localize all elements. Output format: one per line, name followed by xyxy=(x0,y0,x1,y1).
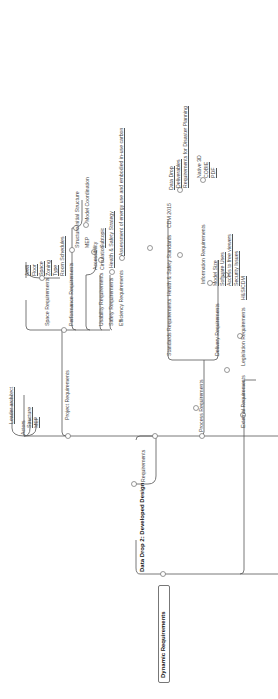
space-item[interactable]: Area xyxy=(24,265,31,276)
health-safety-strategy-item[interactable]: Health & Safety Strategy xyxy=(108,211,115,268)
space-item[interactable]: Room Schedules xyxy=(59,236,66,276)
actor-item[interactable]: Leader architect xyxy=(8,387,15,424)
delivery-item[interactable]: Software Uses xyxy=(219,252,226,286)
circulation-node[interactable]: Circulation xyxy=(99,245,105,270)
delivery-item[interactable]: Security Issues xyxy=(233,251,240,286)
process-requirements-node[interactable]: Process Requirements xyxy=(198,380,204,432)
legislation-requirements-node[interactable]: Legislation Requirements xyxy=(240,307,246,366)
structure-node[interactable]: Structure xyxy=(74,227,80,248)
info-item[interactable]: COBIE xyxy=(203,162,210,178)
performance-requirements-node[interactable]: Performance Requirements xyxy=(68,263,74,326)
delivery-requirements-node[interactable]: Delivery Requirements xyxy=(214,304,220,356)
accessibility-node[interactable]: Accessibility xyxy=(92,242,98,270)
actor-item[interactable]: Structure xyxy=(26,407,33,428)
delivery-item[interactable]: Access to free viewers xyxy=(226,234,233,286)
energy-assessment-item[interactable]: Assessment of energy use and embodied in… xyxy=(118,128,125,256)
cdm-item[interactable]: Requirements for Disaster Planning xyxy=(182,106,189,188)
initial-structure-item[interactable]: Initial Structure xyxy=(74,191,80,226)
mep-node[interactable]: MEP xyxy=(84,237,90,248)
project-requirements-node[interactable]: Project Requirements xyxy=(64,370,70,420)
usability-requirements-node[interactable]: Usability Requirements xyxy=(98,273,104,326)
information-requirements-node[interactable]: Information Requirements xyxy=(200,224,206,284)
hs-cdm-item[interactable]: H&S/CDM xyxy=(240,276,247,300)
space-item[interactable]: Floor xyxy=(31,264,38,276)
space-item[interactable]: Zoning xyxy=(45,260,52,276)
actor-item[interactable]: MEP xyxy=(33,417,40,428)
space-item[interactable]: Type xyxy=(52,265,59,276)
space-requirements-node[interactable]: Space Requirements xyxy=(44,278,50,326)
delivery-item[interactable]: Model Size xyxy=(212,260,219,286)
stage-node[interactable]: Data Drop 2: Developed Design xyxy=(139,483,145,572)
model-coordination-item[interactable]: Model Coordination xyxy=(84,177,90,222)
standards-requirements-node[interactable]: Standards Requirements xyxy=(166,299,172,356)
external-requirements-node[interactable]: External Requirements xyxy=(240,375,246,428)
space-item[interactable]: Space xyxy=(38,261,45,276)
safety-requirements-node[interactable]: Safety Requirements xyxy=(108,278,114,326)
cdm-item[interactable]: Deliverables xyxy=(175,159,182,188)
hs-standards-node[interactable]: Health & Safety Standards xyxy=(166,235,172,296)
root-node[interactable]: Dynamic Requirements xyxy=(158,585,170,683)
root-label: Dynamic Requirements xyxy=(160,611,166,678)
efficiency-requirements-node[interactable]: Efficiency Requirements xyxy=(118,270,124,326)
cdm-item[interactable]: Data Drop xyxy=(168,166,175,190)
mindmap-connectors xyxy=(0,0,278,699)
requirements-node[interactable]: Requirements xyxy=(140,450,146,482)
info-item[interactable]: Native 3D xyxy=(196,155,202,178)
cdm-node[interactable]: CDM 2015 xyxy=(166,203,172,228)
info-item[interactable]: PDF xyxy=(210,168,217,178)
subtopic-item[interactable]: Subtopic xyxy=(99,228,106,248)
